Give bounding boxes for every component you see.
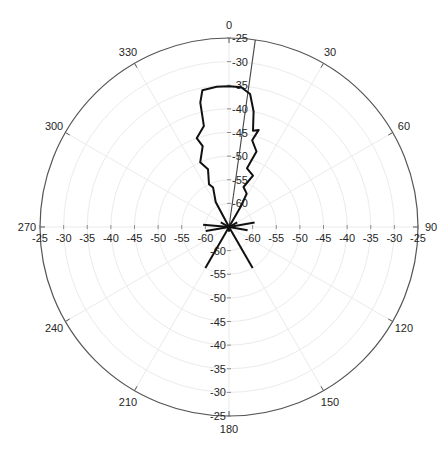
angle-tick <box>321 386 324 390</box>
grid-spoke <box>65 133 229 228</box>
radial-tick-label: -50 <box>210 292 226 304</box>
radial-tick-label: -50 <box>292 232 308 244</box>
radial-tick-label: -30 <box>56 232 72 244</box>
angle-tick <box>135 386 138 390</box>
angle-tick-label: 120 <box>395 322 413 334</box>
angle-tick-label: 0 <box>226 19 232 31</box>
angle-tick-label: 240 <box>45 322 63 334</box>
angle-tick <box>388 319 392 322</box>
radial-tick-label: -55 <box>268 232 284 244</box>
radial-tick-label: -40 <box>103 232 119 244</box>
radial-tick-label: -45 <box>210 316 226 328</box>
radial-tick-label: -25 <box>410 232 426 244</box>
angle-tick-label: 330 <box>119 46 137 58</box>
angle-tick <box>135 63 138 67</box>
radial-tick-label: -40 <box>339 232 355 244</box>
angle-tick-label: 210 <box>119 396 137 408</box>
radial-tick-label: -25 <box>210 410 226 422</box>
angle-tick-label: 30 <box>324 46 336 58</box>
angle-tick <box>321 63 324 67</box>
radial-tick-label: -55 <box>174 232 190 244</box>
angle-tick <box>65 319 69 322</box>
angle-tick <box>388 133 392 136</box>
radial-tick-label: -60 <box>197 232 213 244</box>
angle-tick-label: 60 <box>398 120 410 132</box>
radial-tick-label: -25 <box>232 32 248 44</box>
radial-tick-label: -35 <box>79 232 95 244</box>
angle-tick-label: 300 <box>45 120 63 132</box>
radial-tick-label: -40 <box>210 339 226 351</box>
radial-tick-label: -30 <box>232 56 248 68</box>
angle-tick-label: 180 <box>220 423 238 435</box>
radial-tick-label: -45 <box>316 232 332 244</box>
radial-tick-label: -25 <box>32 232 48 244</box>
radial-tick-label: -30 <box>210 386 226 398</box>
angle-tick-label: 150 <box>321 396 339 408</box>
radial-tick-label: -45 <box>127 232 143 244</box>
grid-spoke <box>229 133 393 228</box>
radial-tick-label: -35 <box>210 363 226 375</box>
polar-chart: 0306090120150180210240270300330 -25-30-3… <box>0 0 442 450</box>
angle-tick-label: 90 <box>425 221 437 233</box>
radial-tick-label: -45 <box>232 127 248 139</box>
radial-tick-label: -30 <box>386 232 402 244</box>
radial-tick-label: -50 <box>150 232 166 244</box>
radial-tick-label: -35 <box>363 232 379 244</box>
angle-tick <box>65 133 69 136</box>
radial-tick-label: -60 <box>245 232 261 244</box>
radial-tick-label: -55 <box>210 268 226 280</box>
